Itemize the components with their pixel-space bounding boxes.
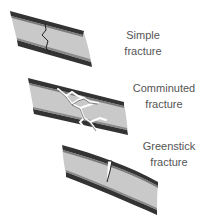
label-comminuted-line1: Comminuted xyxy=(126,82,202,95)
label-simple-line1: Simple xyxy=(113,29,173,42)
label-greenstick-fracture: Greenstick fracture xyxy=(137,140,201,169)
label-greenstick-line2: fracture xyxy=(137,156,201,169)
label-greenstick-line1: Greenstick xyxy=(137,140,201,153)
simple-fracture-bone xyxy=(10,11,92,67)
label-simple-fracture: Simple fracture xyxy=(113,29,173,58)
label-comminuted-line2: fracture xyxy=(126,98,202,111)
label-simple-line2: fracture xyxy=(113,45,173,58)
label-comminuted-fracture: Comminuted fracture xyxy=(126,82,202,111)
comminuted-fracture-bone xyxy=(28,78,128,135)
